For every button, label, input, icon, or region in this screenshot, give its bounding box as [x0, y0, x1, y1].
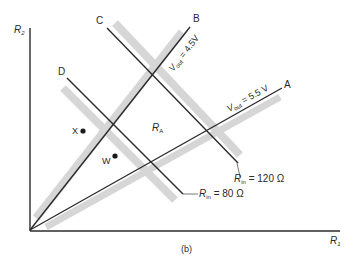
- line-c-label: C: [96, 15, 103, 26]
- point-x-dot: [80, 128, 85, 133]
- x-axis-label: R1: [330, 235, 341, 247]
- line-a-label: A: [284, 79, 291, 90]
- line-b-label: B: [193, 13, 200, 24]
- point-w-label: W: [102, 156, 111, 166]
- point-x-label: X: [72, 126, 78, 136]
- line-c-annotation: Rin = 120 Ω: [234, 173, 285, 185]
- region-label: RA: [152, 122, 163, 134]
- figure-caption: (b): [181, 244, 192, 254]
- point-w-dot: [112, 153, 117, 158]
- line-d-annotation: Rin = 80 Ω: [199, 188, 244, 200]
- line-a: [30, 88, 282, 230]
- y-axis-label: R2: [14, 24, 25, 36]
- design-space-diagram: R2 R1 A B C D Vout = 4.5V Vout = 5.5 V R…: [0, 0, 359, 263]
- line-b: [30, 27, 190, 230]
- line-d-label: D: [58, 66, 65, 77]
